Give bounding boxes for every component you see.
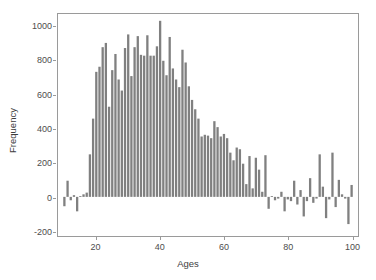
x-axis-tick-mark <box>160 237 161 240</box>
x-axis-tick-label: 20 <box>91 242 101 252</box>
x-axis-tick-mark <box>224 237 225 240</box>
x-axis-title: Ages <box>0 258 376 269</box>
x-axis-tick-label: 80 <box>283 242 293 252</box>
x-axis-tick-mark <box>96 237 97 240</box>
x-axis-tick-mark <box>288 237 289 240</box>
x-axis-tick-mark <box>353 237 354 240</box>
x-axis-tick-label: 40 <box>155 242 165 252</box>
x-axis-tick-label: 60 <box>219 242 229 252</box>
histogram-figure: -20002004006008001000 20406080100 Ages F… <box>0 0 376 280</box>
y-axis-title: Frequency <box>7 81 18 181</box>
x-axis-tick-labels: 20406080100 <box>0 0 376 280</box>
x-axis-tick-label: 100 <box>345 242 360 252</box>
